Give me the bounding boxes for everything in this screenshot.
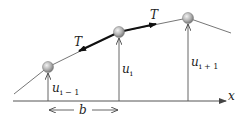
svg-text:u: u — [52, 81, 60, 95]
svg-text:u: u — [122, 62, 130, 76]
svg-text:i: i — [130, 69, 133, 78]
label-u-prev: u i − 1 — [52, 81, 79, 97]
x-axis-label: x — [228, 89, 235, 103]
beaded-string-diagram: x T T u i − 1 u i u i + — [0, 0, 242, 120]
diagram-svg: x T T u i − 1 u i u i + — [0, 0, 242, 120]
mass-curr — [114, 27, 125, 38]
tension-arrow-right — [121, 24, 156, 32]
mass-prev — [43, 62, 54, 73]
mass-next — [183, 13, 194, 24]
tension-label-right: T — [150, 8, 159, 22]
svg-text:i − 1: i − 1 — [60, 88, 79, 97]
svg-text:u: u — [191, 55, 199, 69]
tension-arrow-left — [79, 33, 117, 51]
label-u-next: u i + 1 — [191, 55, 218, 71]
label-u-curr: u i — [122, 62, 133, 78]
spacing-label: b — [79, 103, 87, 117]
tension-label-left: T — [74, 35, 83, 49]
svg-text:i + 1: i + 1 — [199, 62, 218, 71]
